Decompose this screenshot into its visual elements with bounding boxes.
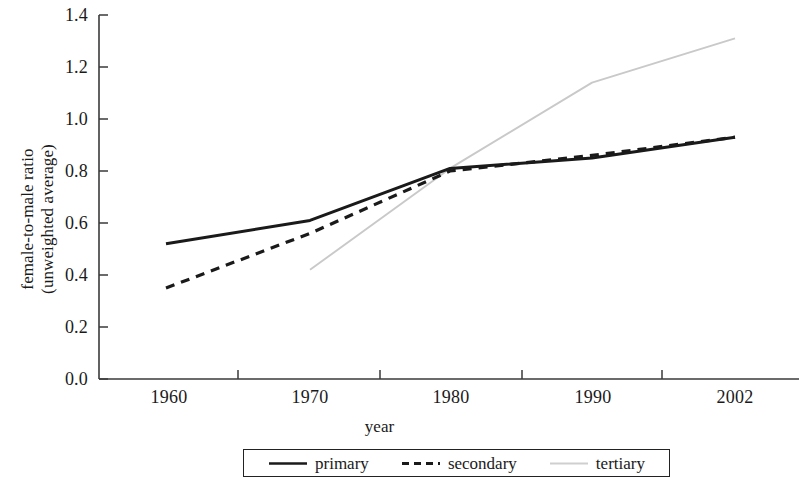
legend-item-primary: primary xyxy=(268,455,369,472)
series-line-primary xyxy=(166,137,735,244)
legend-label-secondary: secondary xyxy=(448,455,517,472)
legend-item-tertiary: tertiary xyxy=(549,455,645,472)
plot-area xyxy=(0,0,799,480)
legend-swatch-primary-icon xyxy=(268,458,308,469)
legend: primary secondary tertiary xyxy=(243,449,670,477)
x-tick-label: 1970 xyxy=(265,388,355,406)
x-axis-title-text: year xyxy=(365,417,394,436)
chart-figure: female-to-male ratio (unweighted average… xyxy=(0,0,799,480)
x-axis-title: year xyxy=(0,417,799,437)
x-tick-label: 2002 xyxy=(690,388,780,406)
series-line-tertiary xyxy=(310,38,735,269)
legend-swatch-secondary-icon xyxy=(401,458,441,469)
series-path-primary xyxy=(166,137,735,244)
series-line-secondary xyxy=(166,137,735,288)
x-axis-ticks xyxy=(238,370,662,379)
legend-item-secondary: secondary xyxy=(401,455,517,472)
legend-label-tertiary: tertiary xyxy=(596,455,645,472)
series-path-tertiary xyxy=(310,38,735,269)
y-axis-ticks xyxy=(99,15,108,379)
x-tick-label: 1990 xyxy=(548,388,638,406)
series-path-secondary xyxy=(166,137,735,288)
legend-swatch-tertiary-icon xyxy=(549,458,589,469)
legend-label-primary: primary xyxy=(315,455,369,472)
x-tick-label: 1960 xyxy=(124,388,214,406)
x-tick-label: 1980 xyxy=(406,388,496,406)
